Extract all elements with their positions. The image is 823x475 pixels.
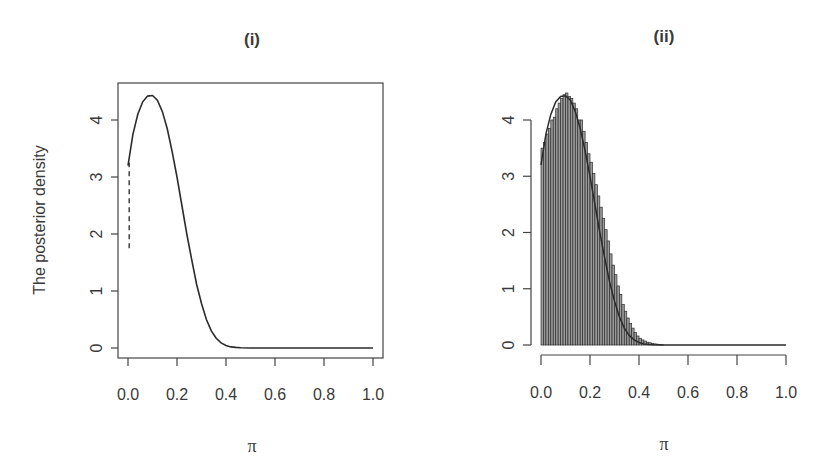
histogram-bar (570, 99, 572, 345)
histogram-bar (563, 95, 565, 345)
x-axis: 0.00.20.40.60.81.0 (117, 358, 384, 403)
figure: (i) 01234 0.00.20.40.60.81.0 The posteri… (0, 0, 823, 475)
y-tick-label: 4 (88, 115, 105, 124)
histogram-bars (541, 93, 664, 345)
histogram-bar (600, 207, 602, 345)
histogram-bar (634, 333, 636, 345)
histogram-bar (561, 99, 563, 345)
x-tick-label: 0.2 (166, 386, 188, 403)
histogram-bar (575, 109, 577, 345)
y-tick-label: 0 (88, 343, 105, 352)
y-tick-label: 0 (500, 340, 517, 349)
density-curve (128, 96, 373, 349)
x-tick-label: 1.0 (775, 384, 797, 401)
panel-title: (i) (244, 30, 260, 49)
histogram-bar (578, 120, 580, 345)
y-tick-label: 2 (500, 228, 517, 237)
panel-ii: (ii) 01234 0.00.20.40.60.81.0 π (500, 27, 797, 454)
histogram-bar (553, 117, 555, 345)
panel-title: (ii) (654, 27, 675, 46)
histogram-bar (605, 230, 607, 345)
histogram-bar (558, 103, 560, 345)
panel-i: (i) 01234 0.00.20.40.60.81.0 The posteri… (31, 30, 384, 456)
histogram-bar (541, 148, 543, 345)
histogram-bar (551, 120, 553, 345)
histogram-bar (548, 128, 550, 345)
y-axis-label: The posterior density (31, 145, 48, 294)
y-axis: 01234 (500, 115, 531, 349)
x-tick-label: 1.0 (362, 386, 384, 403)
x-axis: 0.00.20.40.60.81.0 (530, 355, 797, 401)
histogram-bar (585, 143, 587, 346)
histogram-bar (546, 134, 548, 345)
plot-box (118, 83, 383, 358)
x-tick-label: 0.4 (215, 386, 237, 403)
y-tick-label: 3 (500, 172, 517, 181)
histogram-bar (629, 324, 631, 345)
x-axis-label: π (659, 434, 668, 454)
y-tick-label: 1 (88, 286, 105, 295)
y-tick-label: 2 (88, 229, 105, 238)
histogram-bar (580, 120, 582, 345)
y-tick-label: 4 (500, 115, 517, 124)
x-tick-label: 0.4 (628, 384, 650, 401)
x-tick-label: 0.6 (264, 386, 286, 403)
histogram-bar (568, 96, 570, 345)
y-tick-label: 1 (500, 284, 517, 293)
y-axis: 01234 (88, 115, 118, 352)
histogram-bar (632, 328, 634, 345)
x-tick-label: 0.8 (726, 384, 748, 401)
histogram-bar (639, 338, 641, 345)
histogram-bar (566, 93, 568, 345)
x-tick-label: 0.8 (313, 386, 335, 403)
x-axis-label: π (247, 436, 256, 456)
x-tick-label: 0.2 (579, 384, 601, 401)
histogram-bar (612, 265, 614, 345)
histogram-bar (637, 336, 639, 345)
histogram-bar (610, 254, 612, 345)
histogram-bar (602, 218, 604, 345)
histogram-bar (543, 143, 545, 346)
x-tick-label: 0.0 (530, 384, 552, 401)
histogram-bar (583, 131, 585, 345)
histogram-bar (607, 241, 609, 345)
x-tick-label: 0.0 (117, 386, 139, 403)
x-tick-label: 0.6 (677, 384, 699, 401)
histogram-bar (573, 103, 575, 345)
histogram-bar (556, 109, 558, 345)
histogram-bar (588, 154, 590, 345)
y-tick-label: 3 (88, 172, 105, 181)
